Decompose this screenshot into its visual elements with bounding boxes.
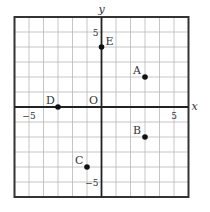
y-tick-neg-5: −5	[85, 178, 99, 188]
x-axis-label: x	[192, 100, 199, 113]
x-tick-5: 5	[171, 111, 177, 121]
point-label: D	[46, 94, 55, 107]
y-tick-5: 5	[93, 28, 99, 38]
point-dot	[99, 44, 105, 50]
point-label: C	[75, 154, 83, 167]
point-dot	[55, 104, 61, 110]
point-c: C	[75, 154, 90, 170]
point-dot	[142, 74, 148, 80]
point-a: A	[132, 64, 148, 80]
x-tick-neg-5: −5	[22, 111, 36, 121]
origin-label: O	[89, 94, 98, 107]
point-label: A	[132, 64, 142, 77]
coordinate-plane: x y O −5 5 5 −5 ABCDE	[0, 0, 210, 212]
point-label: E	[106, 35, 114, 48]
y-axis-label: y	[97, 3, 105, 16]
point-dot	[142, 134, 148, 140]
point-b: B	[133, 124, 148, 140]
point-dot	[84, 164, 90, 170]
point-label: B	[133, 124, 141, 137]
